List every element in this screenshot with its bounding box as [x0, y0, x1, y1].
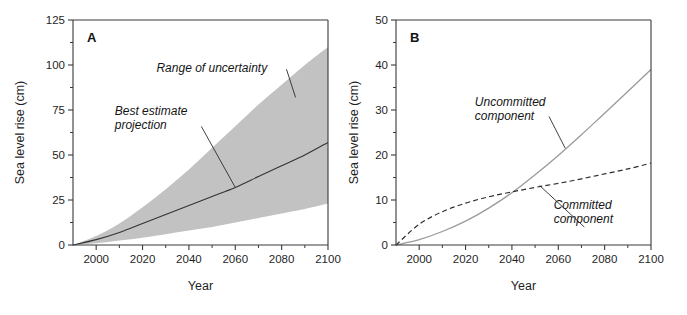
- annotation-text: Committed: [554, 198, 612, 212]
- uncertainty-band: [73, 47, 328, 245]
- data-curve-dashed: [396, 163, 651, 245]
- panel-a-canvas: 0255075100125200020202040206020802100Yea…: [0, 0, 350, 315]
- y-axis-title: Sea level rise (cm): [347, 81, 361, 185]
- annotation-text: projection: [114, 118, 167, 132]
- panel-label: B: [410, 30, 419, 45]
- x-tick-label: 2040: [176, 253, 202, 265]
- panel-label: A: [87, 30, 97, 45]
- annotation-text: Best estimate: [115, 104, 188, 118]
- y-tick-label: 0: [382, 239, 388, 251]
- annotation-text: component: [554, 212, 614, 226]
- annotation-text: Range of uncertainty: [156, 61, 268, 75]
- x-tick-label: 2080: [269, 253, 295, 265]
- y-tick-label: 125: [46, 14, 65, 26]
- x-tick-label: 2040: [499, 253, 525, 265]
- chart-panel-a: 0255075100125200020202040206020802100Yea…: [0, 0, 350, 315]
- y-tick-label: 50: [52, 149, 65, 161]
- annotation-text: Uncommitted: [475, 95, 546, 109]
- y-tick-label: 20: [375, 149, 388, 161]
- y-tick-label: 100: [46, 59, 65, 71]
- x-tick-label: 2060: [545, 253, 571, 265]
- x-tick-label: 2000: [406, 253, 432, 265]
- x-tick-label: 2060: [222, 253, 248, 265]
- x-tick-label: 2100: [638, 253, 664, 265]
- annotation-leader-line: [549, 117, 565, 149]
- x-tick-label: 2000: [83, 253, 109, 265]
- y-tick-label: 10: [375, 194, 388, 206]
- panel-b-canvas: 01020304050200020202040206020802100YearS…: [340, 0, 687, 315]
- x-tick-label: 2080: [592, 253, 618, 265]
- y-tick-label: 0: [59, 239, 65, 251]
- x-axis-title: Year: [188, 279, 213, 293]
- figure-root: 0255075100125200020202040206020802100Yea…: [0, 0, 687, 315]
- y-tick-label: 50: [375, 14, 388, 26]
- y-tick-label: 30: [375, 104, 388, 116]
- x-axis-title: Year: [511, 279, 536, 293]
- y-axis-title: Sea level rise (cm): [13, 81, 27, 185]
- annotation-text: component: [475, 109, 535, 123]
- y-tick-label: 75: [52, 104, 65, 116]
- y-tick-label: 25: [52, 194, 65, 206]
- x-tick-label: 2020: [453, 253, 479, 265]
- x-tick-label: 2020: [130, 253, 156, 265]
- x-tick-label: 2100: [315, 253, 341, 265]
- y-tick-label: 40: [375, 59, 388, 71]
- chart-panel-b: 01020304050200020202040206020802100YearS…: [340, 0, 687, 315]
